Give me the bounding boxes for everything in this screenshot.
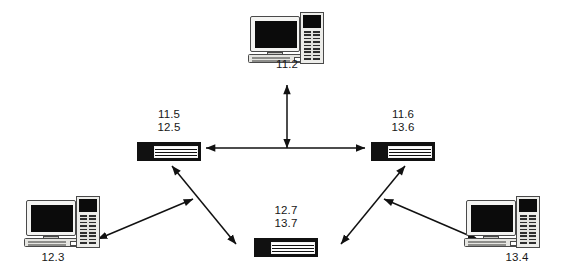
node-label-host-bottom-right: 13.4: [478, 251, 556, 264]
tower-top-panel: [519, 199, 537, 212]
node-label-switch-right: 11.6 13.6: [371, 108, 435, 134]
monitor-screen: [471, 205, 513, 232]
node-switch-right[interactable]: [371, 142, 435, 161]
node-host-top[interactable]: [248, 12, 326, 64]
monitor-icon: [466, 200, 516, 236]
monitor-screen: [255, 21, 297, 48]
tower-drive-bays: [80, 215, 96, 244]
link-switch-left-to-host-bottom-left: [98, 199, 193, 239]
switch-port-panel: [271, 242, 315, 254]
desktop-computer-icon: [464, 196, 542, 248]
node-label-host-top: 11.2: [248, 58, 326, 71]
switch-port-panel: [154, 146, 198, 158]
node-host-bottom-left[interactable]: [24, 196, 102, 248]
node-switch-bottom[interactable]: [254, 238, 318, 257]
desktop-computer-icon: [24, 196, 102, 248]
node-label-switch-left: 11.5 12.5: [137, 108, 201, 134]
monitor-icon: [250, 16, 300, 52]
tower-top-panel: [79, 199, 97, 212]
tower-drive-bays: [304, 31, 320, 60]
node-host-bottom-right[interactable]: [464, 196, 542, 248]
network-switch-icon: [137, 142, 201, 161]
network-switch-icon: [254, 238, 318, 257]
tower-drive-bays: [520, 215, 536, 244]
network-switch-icon: [371, 142, 435, 161]
keyboard-icon: [24, 238, 80, 247]
monitor-icon: [26, 200, 76, 236]
switch-port-panel: [388, 146, 432, 158]
desktop-computer-icon: [248, 12, 326, 64]
node-switch-left[interactable]: [137, 142, 201, 161]
link-switch-right-to-switch-bottom: [341, 166, 405, 244]
tower-icon: [76, 196, 100, 248]
keyboard-icon: [464, 238, 520, 247]
link-switch-left-to-switch-bottom: [172, 166, 236, 244]
tower-icon: [516, 196, 540, 248]
monitor-screen: [31, 205, 73, 232]
node-label-host-bottom-left: 12.3: [14, 251, 92, 264]
tower-icon: [300, 12, 324, 64]
tower-top-panel: [303, 15, 321, 28]
node-label-switch-bottom: 12.7 13.7: [254, 204, 318, 230]
